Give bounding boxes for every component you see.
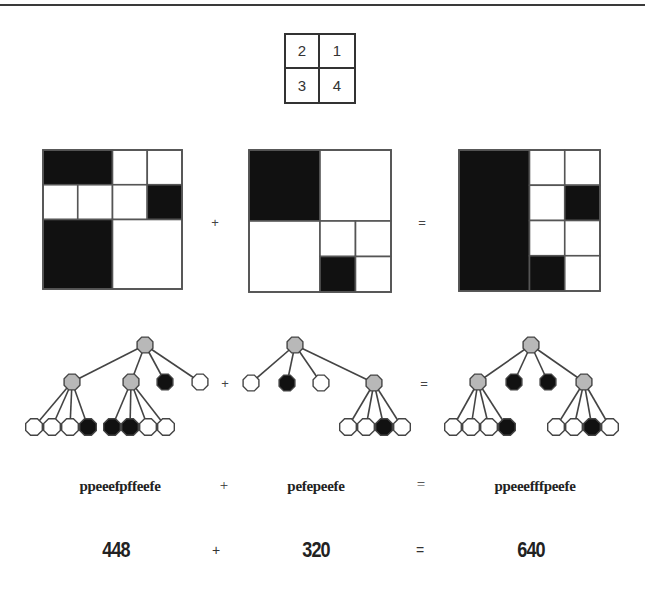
tree-equals-operator: =: [420, 376, 428, 391]
tree-node-partial: [287, 337, 303, 353]
grid-cell-white: [113, 185, 148, 220]
tree-node-full: [104, 419, 121, 436]
grid-cell-black: [43, 220, 113, 290]
grid-cell-black: [320, 257, 356, 293]
pixel-count-a: 448: [102, 537, 130, 563]
tree-node-empty: [158, 419, 175, 436]
code-b: pefepeefe: [287, 478, 344, 495]
tree-node-empty: [394, 419, 411, 436]
tree-node-empty: [463, 419, 480, 436]
tree-node-empty: [340, 419, 357, 436]
grid-cell-white: [78, 185, 113, 220]
grid-cell-white: [113, 220, 183, 290]
tree-node-partial: [123, 374, 139, 390]
grid-cell-white: [530, 221, 565, 256]
grid-cell-white: [356, 221, 392, 257]
tree-node-full: [584, 419, 601, 436]
tree-node-full: [506, 374, 522, 390]
tree-node-full: [376, 419, 393, 436]
grid-cell-white: [320, 221, 356, 257]
grid-equals-operator: =: [418, 215, 426, 230]
pixel-count-b: 320: [302, 537, 330, 563]
tree-node-partial: [470, 374, 486, 390]
tree-node-partial: [137, 337, 153, 353]
tree-node-empty: [602, 419, 619, 436]
grid-plus-operator: +: [211, 215, 219, 230]
tree-node-full: [499, 419, 516, 436]
quadtree-graphs: [26, 337, 619, 435]
code-equals: =: [417, 476, 425, 493]
tree-node-partial: [523, 337, 539, 353]
tree-node-empty: [313, 375, 329, 391]
grid-cell-white: [113, 150, 148, 185]
number-plus: +: [212, 542, 220, 558]
tree-node-empty: [358, 419, 375, 436]
tree-node-empty: [445, 419, 462, 436]
grid-cell-black: [530, 256, 565, 291]
grid-cell-black: [43, 150, 113, 185]
tree-node-full: [279, 375, 295, 391]
tree-edge: [145, 345, 200, 382]
quadtree-image-sum: [459, 150, 600, 291]
tree-node-empty: [548, 419, 565, 436]
number-equals: =: [416, 542, 424, 558]
tree-node-empty: [140, 419, 157, 436]
grid-cell-white: [530, 185, 565, 220]
tree-node-empty: [26, 419, 43, 436]
grid-cell-black: [459, 150, 530, 291]
grid-cell-white: [147, 150, 182, 185]
tree-node-empty: [243, 375, 259, 391]
grid-cell-white: [565, 150, 600, 185]
quadtree-image-a: [43, 150, 182, 289]
tree-node-full: [122, 419, 139, 436]
tree-node-empty: [44, 419, 61, 436]
tree-plus-operator: +: [221, 376, 229, 391]
pixel-count-sum: 640: [517, 537, 545, 563]
grid-cell-black: [565, 185, 600, 220]
quadtree-image-b: [249, 150, 391, 292]
quadtree-diagram: [0, 0, 645, 592]
grid-cell-white: [565, 256, 600, 291]
tree-node-partial: [576, 374, 592, 390]
tree-node-full: [80, 419, 97, 436]
grid-cell-black: [147, 185, 182, 220]
quadtree-sum: [445, 337, 619, 435]
image-grids: [43, 150, 600, 292]
grid-cell-white: [356, 257, 392, 293]
grid-cell-white: [565, 221, 600, 256]
tree-node-empty: [566, 419, 583, 436]
grid-cell-black: [249, 150, 320, 221]
tree-node-partial: [366, 375, 382, 391]
tree-node-full: [540, 374, 556, 390]
quadtree-a: [26, 337, 208, 435]
tree-node-full: [157, 374, 173, 390]
grid-cell-white: [249, 221, 320, 292]
quadtree-b: [243, 337, 410, 435]
grid-cell-white: [43, 185, 78, 220]
code-sum: ppeeefffpeefe: [494, 478, 575, 495]
grid-cell-white: [320, 150, 391, 221]
tree-node-empty: [192, 374, 208, 390]
tree-node-empty: [62, 419, 79, 436]
grid-cell-white: [530, 150, 565, 185]
code-plus: +: [220, 477, 228, 494]
tree-node-empty: [481, 419, 498, 436]
code-a: ppeeefpffeefe: [79, 478, 160, 495]
tree-node-partial: [64, 374, 80, 390]
tree-edge: [295, 345, 374, 383]
